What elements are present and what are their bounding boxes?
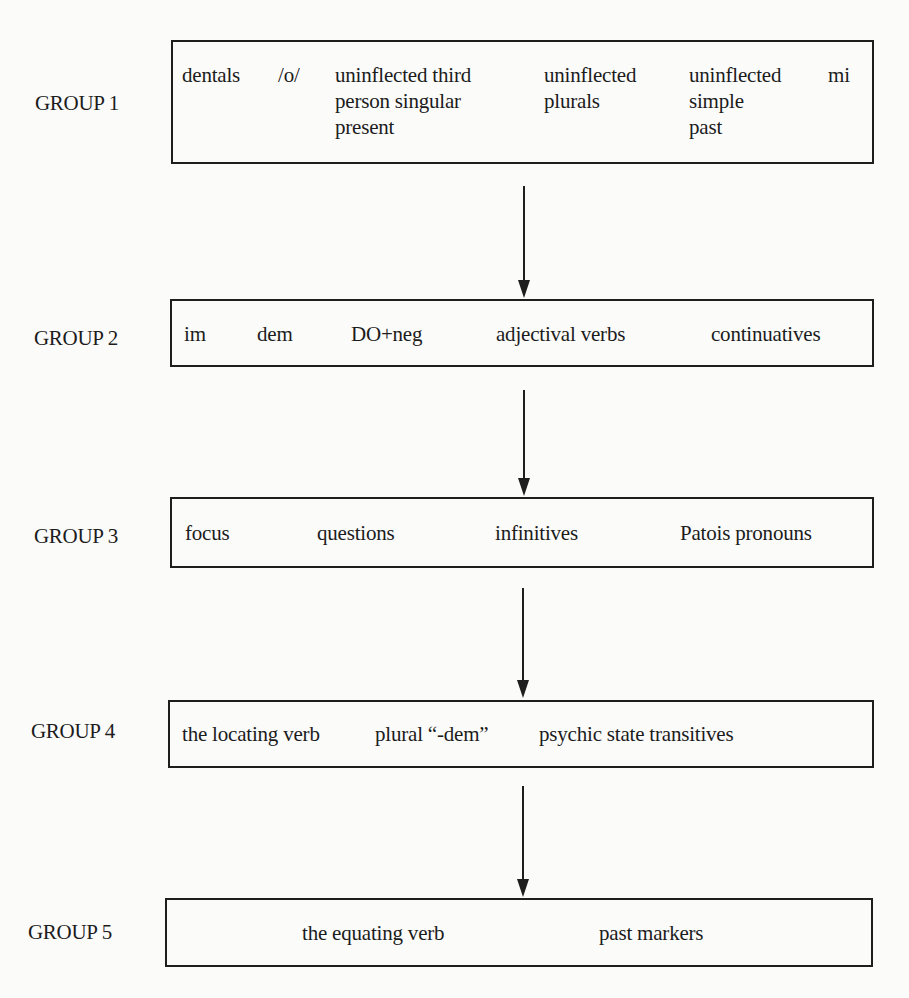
group-2-item-adjectival-verbs: adjectival verbs (496, 321, 625, 347)
group-1-item-mi: mi (828, 62, 850, 88)
group-3-box: focus questions infinitives Patois prono… (170, 497, 874, 568)
group-3-item-infinitives: infinitives (495, 520, 578, 546)
arrow-head-icon (518, 478, 530, 496)
group-3-item-questions: questions (317, 520, 395, 546)
group-4-item-plural-dem: plural “-dem” (375, 721, 488, 747)
group-2-label: GROUP 2 (34, 328, 118, 349)
group-5-label: GROUP 5 (28, 922, 112, 943)
arrow-shaft (522, 588, 524, 686)
group-3-label: GROUP 3 (34, 526, 118, 547)
group-4-box: the locating verb plural “-dem” psychic … (168, 700, 874, 768)
group-2-item-dem: dem (257, 321, 293, 347)
group-5-item-past-markers: past markers (599, 920, 703, 946)
group-3-item-focus: focus (185, 520, 230, 546)
group-5-item-equating-verb: the equating verb (302, 920, 444, 946)
group-2-item-im: im (184, 321, 206, 347)
arrow-shaft (523, 186, 525, 286)
group-1-item-third-person: uninflected third person singular presen… (335, 62, 471, 140)
arrow-head-icon (517, 680, 529, 698)
arrow-head-icon (518, 280, 530, 298)
group-4-item-locating-verb: the locating verb (182, 721, 320, 747)
arrow-shaft (522, 786, 524, 885)
arrow-head-icon (517, 879, 529, 897)
group-1-item-plurals: uninflected plurals (544, 62, 636, 114)
group-2-item-do-neg: DO+neg (351, 321, 422, 347)
group-4-item-psychic-state-transitives: psychic state transitives (539, 721, 733, 747)
group-3-item-patois-pronouns: Patois pronouns (680, 520, 812, 546)
group-2-item-continuatives: continuatives (711, 321, 820, 347)
arrow-shaft (523, 390, 525, 484)
group-1-item-simple-past: uninflected simple past (689, 62, 781, 140)
group-1-item-dentals: dentals (182, 62, 240, 88)
group-1-box: dentals /o/ uninflected third person sin… (171, 40, 874, 164)
group-4-label: GROUP 4 (31, 721, 115, 742)
group-5-box: the equating verb past markers (165, 898, 873, 967)
group-2-box: im dem DO+neg adjectival verbs continuat… (170, 299, 874, 367)
group-1-label: GROUP 1 (35, 93, 119, 114)
group-1-item-o: /o/ (278, 62, 300, 88)
